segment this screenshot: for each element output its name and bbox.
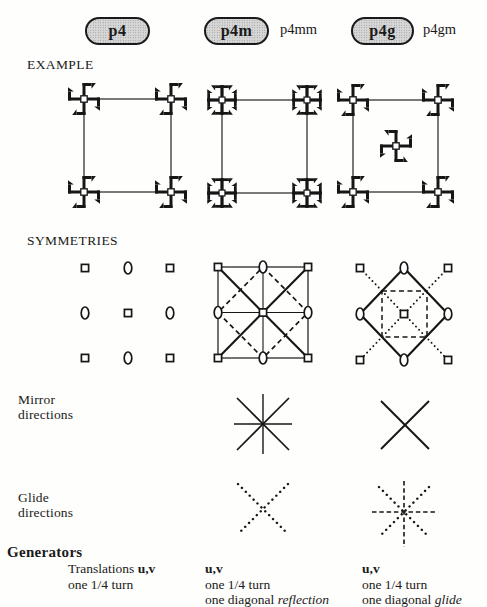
fourfold-center-icon bbox=[304, 354, 311, 361]
fourfold-center-icon bbox=[214, 354, 221, 361]
pinwheel-motif-icon bbox=[337, 84, 369, 116]
p4g-generators-line1: u,v bbox=[362, 561, 462, 577]
twofold-center-icon bbox=[259, 261, 267, 273]
p4g-glide-directions-star bbox=[366, 476, 442, 552]
mirror-motif-icon bbox=[207, 85, 236, 114]
p4-example-figure bbox=[58, 72, 198, 222]
fourfold-center-icon bbox=[81, 354, 88, 361]
p4m-generators-line2: one 1/4 turn bbox=[205, 577, 329, 593]
fourfold-center-icon bbox=[304, 263, 311, 270]
twofold-center-icon bbox=[214, 307, 222, 319]
fourfold-center-icon bbox=[124, 309, 131, 316]
p4g-generators-line2: one 1/4 turn bbox=[362, 577, 462, 593]
fourfold-center-icon bbox=[356, 356, 363, 363]
p4m-example-figure bbox=[196, 72, 334, 222]
twofold-center-icon bbox=[400, 354, 408, 366]
wallpaper-groups-figure-page: p4 p4m p4mm p4g p4gm EXAMPLE SYMMETRIES bbox=[0, 0, 487, 607]
twofold-center-icon bbox=[259, 352, 267, 364]
p4m-generators-line1: u,v bbox=[205, 561, 329, 577]
p4-generators-line1: Translations u,v bbox=[68, 561, 155, 577]
p4-generators: Translations u,v one 1/4 turn bbox=[68, 561, 155, 592]
p4g-example-figure bbox=[328, 72, 468, 222]
pinwheel-motif-icon bbox=[68, 83, 100, 115]
pinwheel-motif-icon bbox=[155, 83, 187, 115]
fourfold-center-icon bbox=[214, 263, 221, 270]
glide-directions-label: Glide directions bbox=[18, 490, 73, 520]
mirror-motif-icon bbox=[207, 178, 236, 207]
p4-symmetry-diagram bbox=[68, 252, 188, 374]
symmetries-row-label: SYMMETRIES bbox=[27, 233, 118, 249]
mirror-motif-icon bbox=[292, 85, 321, 114]
fourfold-center-icon bbox=[400, 310, 407, 317]
pinwheel-motif-icon bbox=[155, 176, 187, 208]
p4-badge-label: p4 bbox=[109, 22, 127, 40]
pinwheel-motif-icon bbox=[422, 84, 454, 116]
p4m-generators-line3: one diagonal reflection bbox=[205, 592, 329, 607]
p4-badge: p4 bbox=[85, 17, 150, 45]
fourfold-center-icon bbox=[444, 264, 451, 271]
p4m-glide-directions-x bbox=[230, 478, 298, 542]
twofold-center-icon bbox=[166, 307, 174, 319]
twofold-center-icon bbox=[444, 308, 452, 320]
twofold-center-icon bbox=[400, 262, 408, 274]
p4g-badge-label: p4g bbox=[369, 22, 395, 40]
twofold-center-icon bbox=[124, 352, 132, 364]
p4mm-alt-label: p4mm bbox=[280, 21, 317, 38]
twofold-center-icon bbox=[356, 308, 364, 320]
mirror-motif-icon bbox=[292, 178, 321, 207]
twofold-center-icon bbox=[81, 307, 89, 319]
twofold-center-icon bbox=[304, 307, 312, 319]
p4g-generators: u,v one 1/4 turn one diagonal glide bbox=[362, 561, 462, 607]
fourfold-center-icon bbox=[259, 309, 266, 316]
p4g-badge: p4g bbox=[351, 17, 414, 45]
generators-heading: Generators bbox=[7, 544, 82, 561]
mirrored-pinwheel-motif-icon bbox=[380, 130, 412, 162]
example-row-label: EXAMPLE bbox=[27, 57, 94, 73]
p4g-generators-line3: one diagonal glide bbox=[362, 592, 462, 607]
twofold-center-icon bbox=[124, 262, 132, 274]
p4m-mirror-directions-star bbox=[226, 388, 302, 460]
p4-generators-line2: one 1/4 turn bbox=[68, 577, 155, 593]
p4m-symmetry-diagram bbox=[206, 255, 321, 370]
p4m-badge: p4m bbox=[204, 17, 269, 45]
p4gm-alt-label: p4gm bbox=[423, 21, 456, 38]
fourfold-center-icon bbox=[444, 356, 451, 363]
pinwheel-motif-icon bbox=[337, 176, 369, 208]
p4g-symmetry-diagram bbox=[346, 255, 461, 370]
pinwheel-motif-icon bbox=[68, 176, 100, 208]
p4g-mirror-directions-x bbox=[374, 394, 438, 456]
fourfold-center-icon bbox=[356, 264, 363, 271]
p4m-generators: u,v one 1/4 turn one diagonal reflection bbox=[205, 561, 329, 607]
mirror-directions-label: Mirror directions bbox=[18, 392, 73, 422]
fourfold-center-icon bbox=[166, 264, 173, 271]
p4m-badge-label: p4m bbox=[221, 22, 253, 40]
fourfold-center-icon bbox=[166, 354, 173, 361]
pinwheel-motif-icon bbox=[422, 176, 454, 208]
fourfold-center-icon bbox=[81, 264, 88, 271]
